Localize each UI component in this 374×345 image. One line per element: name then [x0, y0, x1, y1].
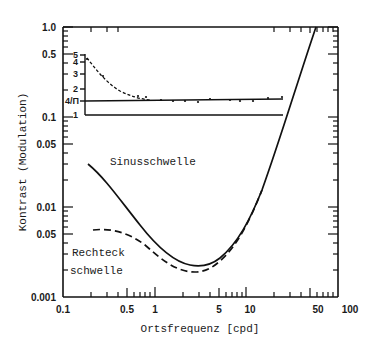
y-axis-ticks	[63, 27, 338, 270]
x-tick-label: 0.1	[56, 304, 70, 315]
x-axis-label: Ortsfrequenz [cpd]	[141, 323, 260, 335]
rechteck-label: Rechteck	[72, 247, 125, 259]
x-tick-label: 50	[312, 304, 324, 315]
y-tick-label: 0.01	[37, 202, 57, 213]
y-tick-label: 0.5	[42, 49, 56, 60]
y-tick-label: 1.0	[42, 22, 56, 33]
inset-tick-label: 2	[73, 84, 78, 94]
inset-tick-label: 4/Π	[65, 96, 79, 106]
schwelle-label: schwelle	[70, 265, 123, 277]
inset-data-points	[86, 58, 283, 103]
x-tick-label: 100	[342, 304, 359, 315]
inset-chart: 5 4 3 2 4/Π 1	[65, 50, 283, 120]
x-tick-label: 1	[152, 304, 158, 315]
inset-tick-label: 3	[73, 69, 78, 79]
y-tick-label: 0.05	[37, 229, 57, 240]
x-tick-label: 5	[216, 304, 222, 315]
y-tick-label: 0.001	[31, 292, 56, 303]
x-tick-label: 10	[244, 304, 256, 315]
x-tick-label: 0.5	[120, 304, 134, 315]
inset-tick-label: 4	[73, 57, 78, 67]
y-tick-label: 0.05	[37, 139, 57, 150]
sinusschwelle-curve	[88, 27, 316, 266]
sinusschwelle-label: Sinusschwelle	[110, 156, 196, 168]
chart: 1.0 0.5 0.1 0.05 0.01 0.05 0.001 0.1 0.5…	[0, 0, 374, 345]
y-axis-label: Kontrast (Modulation)	[17, 93, 29, 232]
y-tick-label: 0.1	[42, 112, 56, 123]
inset-tick-label: 1	[73, 110, 78, 120]
inset-ratio-curve	[87, 58, 150, 100]
y-tick-labels: 1.0 0.5 0.1 0.05 0.01 0.05 0.001	[31, 22, 56, 303]
x-tick-labels: 0.1 0.5 1 5 10 50 100	[56, 304, 359, 315]
